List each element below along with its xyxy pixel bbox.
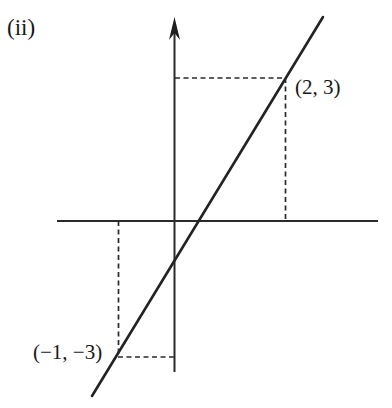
plotted-line <box>92 17 323 396</box>
line-graph-figure: (ii) (2, 3) (−1, −3) <box>0 0 392 408</box>
part-label: (ii) <box>7 16 35 39</box>
point-label-minus1-minus3: (−1, −3) <box>33 342 102 363</box>
point-label-2-3: (2, 3) <box>295 77 341 98</box>
